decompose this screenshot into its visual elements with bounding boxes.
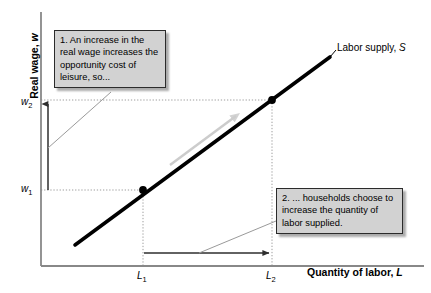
callout-box-2: 2. ... households choose to increase the… — [276, 188, 403, 234]
y-axis-title-variable: w — [28, 33, 40, 41]
point-l1-w1 — [139, 186, 147, 194]
curve-label-text: Labor supply, — [337, 42, 399, 53]
w1-subscript: 1 — [28, 188, 32, 197]
labor-supply-diagram: Real wage, w Quantity of labor, L w2 w1 … — [0, 0, 431, 293]
l2-subscript: 2 — [272, 275, 276, 284]
w2-subscript: 2 — [28, 101, 32, 110]
callout-box-1: 1. An increase in the real wage increase… — [54, 30, 166, 88]
x-axis-title-text: Quantity of labor, — [307, 266, 396, 278]
point-l2-w2 — [268, 96, 276, 104]
y-tick-label-w1: w1 — [21, 183, 32, 197]
y-tick-label-w2: w2 — [21, 96, 32, 110]
y-axis-title-text: Real wage, — [28, 42, 40, 99]
x-axis-title-variable: L — [396, 266, 402, 278]
x-tick-label-l1: L1 — [137, 270, 147, 284]
x-tick-label-l2: L2 — [266, 270, 276, 284]
curve-label-variable: S — [399, 42, 406, 53]
l1-subscript: 1 — [143, 275, 147, 284]
x-axis-title: Quantity of labor, L — [307, 266, 403, 278]
labor-supply-curve-label: Labor supply, S — [337, 42, 406, 54]
